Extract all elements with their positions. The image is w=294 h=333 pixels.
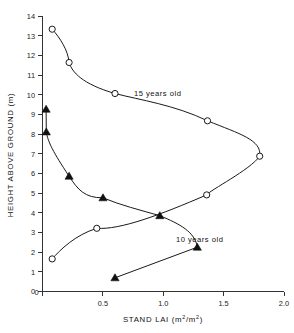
data-point-triangle	[193, 243, 201, 250]
y-tick-label: 10	[27, 91, 35, 100]
series-10-curve	[46, 109, 197, 278]
series-15-curve	[52, 29, 260, 259]
y-tick-label: 3	[31, 228, 35, 237]
y-tick-label: 9	[31, 110, 35, 119]
data-point-circle	[49, 26, 55, 32]
series-10-annotation: 10 years old	[176, 235, 223, 244]
y-tick-label: 13	[27, 32, 35, 41]
y-tick-label: 11	[27, 71, 35, 80]
x-tick-label: 1.5	[218, 299, 228, 308]
axis-frame	[43, 16, 285, 292]
x-axis-title: STAND LAI (m2/m2)	[123, 314, 203, 324]
data-point-circle	[49, 256, 55, 262]
data-point-triangle	[111, 274, 119, 281]
data-point-circle	[204, 192, 210, 198]
x-tick-label: 1.0	[158, 299, 168, 308]
x-tick-label: 0	[34, 288, 38, 297]
y-tick-label: 4	[31, 209, 35, 218]
x-axis-tick-labels: 0 0.5 1.0 1.5 2.0	[34, 288, 289, 308]
data-point-circle	[66, 59, 72, 65]
x-tick-label: 0.5	[98, 299, 108, 308]
series-15-annotation: 15 years old	[134, 89, 181, 98]
chart-canvas: 0 1 2 3 4 5 6 7 8 9 10 11 12 13 14 0 0.5	[0, 0, 294, 333]
x-tick-label: 2.0	[279, 299, 289, 308]
y-tick-label: 12	[27, 51, 35, 60]
y-axis-ticks	[38, 16, 43, 292]
y-axis-tick-labels: 0 1 2 3 4 5 6 7 8 9 10 11 12 13 14	[27, 12, 35, 296]
data-point-circle	[204, 118, 210, 124]
data-point-triangle	[65, 172, 73, 179]
figure-container: 0 1 2 3 4 5 6 7 8 9 10 11 12 13 14 0 0.5	[0, 0, 294, 333]
data-point-triangle	[42, 105, 50, 112]
y-tick-label: 2	[31, 248, 35, 257]
axis-lines	[43, 16, 285, 292]
x-axis-ticks	[43, 292, 285, 297]
y-tick-label: 6	[31, 169, 35, 178]
y-tick-label: 7	[31, 150, 35, 159]
data-point-triangle	[42, 128, 50, 135]
y-tick-label: 14	[27, 12, 35, 21]
y-tick-label: 1	[31, 268, 35, 277]
data-point-circle	[257, 153, 263, 159]
data-point-circle	[112, 90, 118, 96]
y-tick-label: 5	[31, 189, 35, 198]
y-axis-title: HEIGHT ABOVE GROUND (m)	[6, 93, 15, 218]
data-point-circle	[94, 225, 100, 231]
y-tick-label: 8	[31, 130, 35, 139]
series-15-markers	[49, 26, 263, 262]
